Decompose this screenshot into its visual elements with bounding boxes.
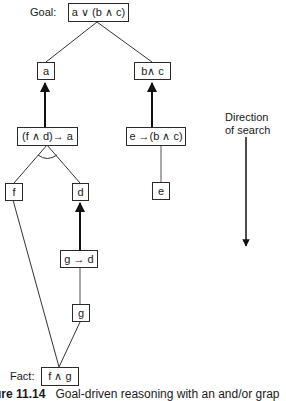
node-rule-e-bc: e →(b ∧ c) — [126, 127, 186, 146]
node-g: g — [72, 304, 90, 322]
node-d: d — [72, 183, 89, 201]
goal-label: Goal: — [30, 6, 56, 19]
node-fact: f ∧ g — [41, 367, 79, 386]
edge-goal-bc — [97, 22, 152, 62]
node-b-and-c: b∧ c — [134, 62, 171, 80]
node-e: e — [152, 182, 170, 200]
edge-f-fact — [13, 200, 59, 367]
node-a: a — [37, 62, 55, 80]
caption-text: Goal-driven reasoning with an and/or gra… — [55, 387, 279, 401]
figure-caption: ure 11.14 Goal-driven reasoning with an … — [0, 387, 280, 401]
fact-label: Fact: — [10, 370, 34, 383]
node-f: f — [5, 183, 23, 201]
direction-label-line2: of search — [225, 124, 270, 137]
figure-number: ure 11.14 — [0, 387, 45, 401]
node-goal: a ∨ (b ∧ c) — [68, 3, 129, 22]
direction-label-line1: Direction — [225, 111, 268, 124]
edge-rule-d — [47, 145, 80, 183]
edge-goal-a — [46, 22, 97, 62]
node-rule-fd-a: (f ∧ d)→ a — [17, 127, 78, 146]
and-arc — [38, 155, 57, 159]
edge-rule-f — [14, 145, 47, 183]
node-rule-g-d: g → d — [60, 250, 98, 268]
edge-g-fact — [59, 322, 80, 367]
